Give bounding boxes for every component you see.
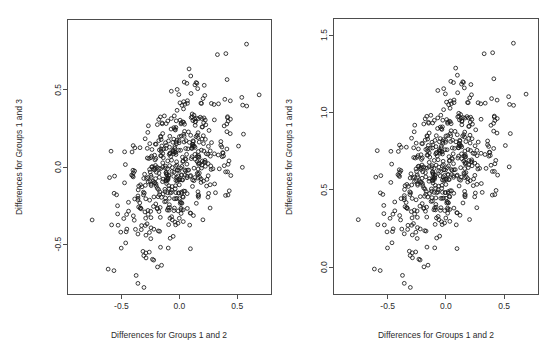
data-point (169, 89, 173, 93)
data-point (119, 230, 123, 234)
right-y-axis-title: Differences for Groups 1 and 3 (284, 99, 294, 215)
data-point (217, 102, 221, 106)
data-point (189, 92, 193, 96)
y-tick-label: 0.5 (53, 84, 63, 96)
data-point (224, 194, 228, 198)
data-point (197, 140, 201, 144)
data-point (409, 172, 413, 176)
data-point (507, 165, 511, 169)
data-point (403, 188, 407, 192)
data-point (144, 233, 148, 237)
data-point (451, 152, 455, 156)
data-point (459, 166, 463, 170)
data-point (375, 149, 379, 153)
data-point (507, 95, 511, 99)
data-point (140, 224, 144, 228)
data-point (400, 227, 404, 231)
y-tick-label: -0.5 (53, 237, 63, 252)
data-point (492, 77, 496, 81)
data-point (399, 218, 403, 222)
y-tick-label: 1.5 (319, 29, 329, 41)
data-point (241, 103, 245, 107)
data-point (479, 151, 483, 155)
data-point (376, 223, 380, 227)
data-point (145, 146, 149, 150)
data-point (167, 196, 171, 200)
data-point (213, 182, 217, 186)
data-point (386, 246, 390, 250)
data-point (452, 98, 456, 102)
data-point (172, 114, 176, 118)
data-point (408, 176, 412, 180)
data-point (408, 286, 412, 290)
data-point (157, 175, 161, 179)
data-point (412, 146, 416, 150)
data-point (388, 216, 392, 220)
data-point (411, 256, 415, 260)
data-point (402, 281, 406, 285)
data-point (401, 273, 405, 277)
data-point (210, 141, 214, 145)
data-point (479, 117, 483, 121)
data-point (495, 98, 499, 102)
data-point (406, 228, 410, 232)
data-point (417, 257, 421, 261)
data-point (151, 257, 155, 261)
data-point (463, 167, 467, 171)
data-point (156, 265, 160, 269)
data-point (476, 140, 480, 144)
data-point (142, 177, 146, 181)
data-point (144, 216, 148, 220)
data-point (418, 195, 422, 199)
right-x-axis: -0.50.00.5 (380, 295, 510, 311)
data-point (189, 74, 193, 78)
data-point (166, 159, 170, 163)
data-point (131, 214, 135, 218)
data-point (149, 237, 153, 241)
data-point (216, 153, 220, 157)
data-point (196, 87, 200, 91)
data-point (372, 267, 376, 271)
data-point (138, 146, 142, 150)
data-point (167, 223, 171, 227)
data-point (192, 166, 196, 170)
data-point (413, 123, 417, 127)
y-tick-label: 0.5 (319, 184, 329, 196)
data-point (496, 173, 500, 177)
data-point (146, 130, 150, 134)
data-point (402, 232, 406, 236)
y-tick-label: 0.0 (53, 161, 63, 173)
data-point (201, 218, 205, 222)
data-point (168, 145, 172, 149)
y-tick-label: 1.0 (319, 106, 329, 118)
data-point (162, 147, 166, 151)
data-point (90, 218, 94, 222)
data-point (389, 149, 393, 153)
data-point (492, 147, 496, 151)
data-point (434, 134, 438, 138)
data-point (414, 141, 418, 145)
data-point (142, 190, 146, 194)
data-point (229, 174, 233, 178)
data-point (382, 223, 386, 227)
left-x-axis-title: Differences for Groups 1 and 2 (111, 330, 227, 340)
data-point (434, 196, 438, 200)
data-point (222, 124, 226, 128)
data-point (175, 108, 179, 112)
data-point (189, 247, 193, 251)
data-point (444, 183, 448, 187)
data-point (390, 241, 394, 245)
data-point (436, 89, 440, 93)
data-point (177, 183, 181, 187)
data-point (224, 52, 228, 56)
left-y-axis: -0.50.00.5 (53, 84, 67, 252)
data-point (503, 144, 507, 148)
data-point (483, 153, 487, 157)
x-tick-label: 0.0 (173, 301, 185, 311)
data-point (225, 78, 229, 82)
data-point (139, 228, 143, 232)
data-point (410, 197, 414, 201)
data-point (149, 216, 153, 220)
data-point (207, 191, 211, 195)
data-point (448, 219, 452, 223)
